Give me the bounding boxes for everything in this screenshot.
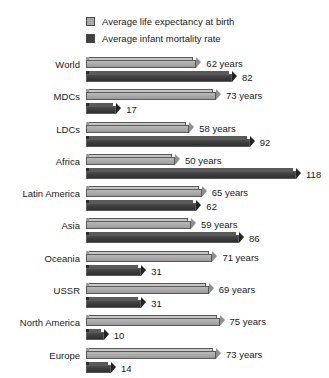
chart-rows: World62 years82MDCs73 years17LDCs58 year… [0, 55, 329, 378]
bar-front-face [86, 171, 296, 179]
bar-front-face [86, 235, 239, 243]
bar-value-label: 86 [249, 233, 260, 244]
bar-front-face [86, 60, 196, 68]
bar-end-cap [216, 89, 221, 100]
bar-infant-mortality [86, 106, 116, 114]
bar-value-label: 92 [260, 137, 271, 148]
chart-row: Latin America65 years62 [0, 184, 329, 216]
bar-value-label: 75 years [230, 316, 266, 327]
chart-row: North America75 years10 [0, 313, 329, 345]
bar-infant-mortality [86, 139, 250, 147]
bar-front-face [86, 254, 212, 262]
legend-item-infant-mortality: Average infant mortality rate [86, 31, 234, 46]
bar-value-label: 10 [114, 330, 125, 341]
bar-life-expectancy [86, 254, 212, 262]
chart-row: LDCs58 years92 [0, 120, 329, 152]
bar-life-expectancy [86, 189, 202, 197]
bar-front-face [86, 74, 232, 82]
chart-row: Oceania71 years31 [0, 249, 329, 281]
bar-end-cap [220, 315, 225, 326]
category-label-africa: Africa [0, 156, 80, 167]
bar-infant-mortality [86, 365, 111, 373]
bar-infant-mortality [86, 332, 104, 340]
bar-life-expectancy [86, 125, 189, 133]
bar-value-label: 58 years [199, 123, 235, 134]
bar-value-label: 50 years [185, 155, 221, 166]
bar-end-cap [191, 218, 196, 229]
category-label-world: World [0, 59, 80, 70]
category-label-mdcs: MDCs [0, 91, 80, 102]
bar-end-cap [296, 168, 301, 179]
bar-infant-mortality [86, 74, 232, 82]
bar-value-label: 31 [151, 266, 162, 277]
bar-life-expectancy [86, 286, 209, 294]
bar-value-label: 62 [206, 201, 217, 212]
legend-item-life-expectancy: Average life expectancy at birth [86, 14, 234, 29]
bar-value-label: 14 [121, 363, 132, 374]
bar-value-label: 65 years [212, 187, 248, 198]
bar-front-face [86, 221, 191, 229]
light-gray-swatch-icon [86, 17, 95, 26]
bar-front-face [86, 139, 250, 147]
bar-value-label: 71 years [222, 252, 258, 263]
bar-life-expectancy [86, 318, 220, 326]
bar-end-cap [175, 154, 180, 165]
chart-row: World62 years82 [0, 55, 329, 87]
bar-value-label: 69 years [219, 284, 255, 295]
bar-front-face [86, 300, 141, 308]
legend-label-infant-mortality: Average infant mortality rate [102, 33, 221, 44]
bar-value-label: 73 years [226, 90, 262, 101]
bar-life-expectancy [86, 92, 216, 100]
bar-value-label: 82 [242, 72, 253, 83]
bar-front-face [86, 351, 216, 359]
legend-label-life-expectancy: Average life expectancy at birth [102, 16, 234, 27]
chart-row: USSR69 years31 [0, 281, 329, 313]
bar-front-face [86, 318, 220, 326]
category-label-ldcs: LDCs [0, 124, 80, 135]
bar-end-cap [116, 103, 121, 114]
chart-row: MDCs73 years17 [0, 87, 329, 119]
bar-end-cap [111, 362, 116, 373]
bar-life-expectancy [86, 221, 191, 229]
bar-end-cap [196, 57, 201, 68]
bar-front-face [86, 332, 104, 340]
category-label-europe: Europe [0, 350, 80, 361]
bar-end-cap [216, 348, 221, 359]
bar-front-face [86, 268, 141, 276]
bar-end-cap [189, 122, 194, 133]
bar-end-cap [141, 297, 146, 308]
bar-value-label: 17 [126, 104, 137, 115]
bar-value-label: 118 [306, 169, 321, 180]
dark-gray-swatch-icon [86, 34, 95, 43]
bar-end-cap [141, 265, 146, 276]
bar-value-label: 73 years [226, 349, 262, 360]
bar-front-face [86, 125, 189, 133]
bar-infant-mortality [86, 268, 141, 276]
bar-life-expectancy [86, 157, 175, 165]
bar-infant-mortality [86, 171, 296, 179]
bar-end-cap [250, 136, 255, 147]
bar-front-face [86, 106, 116, 114]
chart-row: Europe73 years14 [0, 346, 329, 378]
bar-front-face [86, 365, 111, 373]
bar-end-cap [212, 251, 217, 262]
bar-end-cap [239, 232, 244, 243]
bar-infant-mortality [86, 235, 239, 243]
chart-legend: Average life expectancy at birth Average… [86, 14, 234, 48]
bar-end-cap [209, 283, 214, 294]
category-label-latin-america: Latin America [0, 188, 80, 199]
bar-life-expectancy [86, 351, 216, 359]
category-label-oceania: Oceania [0, 253, 80, 264]
bar-end-cap [104, 329, 109, 340]
category-label-asia: Asia [0, 220, 80, 231]
bar-front-face [86, 189, 202, 197]
category-label-north-america: North America [0, 317, 80, 328]
bar-front-face [86, 203, 196, 211]
category-label-ussr: USSR [0, 285, 80, 296]
bar-infant-mortality [86, 300, 141, 308]
chart-row: Africa50 years118 [0, 152, 329, 184]
bar-front-face [86, 92, 216, 100]
chart-container: Average life expectancy at birth Average… [0, 0, 329, 378]
bar-value-label: 31 [151, 298, 162, 309]
bar-front-face [86, 157, 175, 165]
